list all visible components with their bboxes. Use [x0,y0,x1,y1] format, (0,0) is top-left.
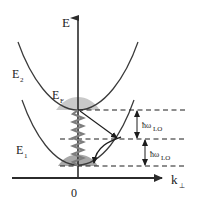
subband-label-E2-sub: 2 [20,76,24,84]
subband-label-E2: E 2 [12,67,24,84]
subband-label-E1-sub: 1 [24,152,28,160]
phonon-energy-upper-label-main: ħω [142,121,151,130]
k-perp-label-main: k [171,172,178,187]
origin-label: 0 [71,186,77,200]
phonon-energy-upper-label: ħω LO [142,121,162,133]
fermi-level-label-sub: F [60,97,64,105]
subband-label-E2-main: E [12,67,19,81]
band-diagram-figure: E k ⊥ 0 E 2 E 1 E F ħω LO ħω [0,0,197,206]
k-perp-label-sub: ⊥ [179,182,185,190]
phonon-energy-lower-label-sub: LO [161,154,170,162]
subband-label-E1-main: E [16,143,23,157]
energy-axis-label: E [62,15,70,30]
k-perp-axis-label: k ⊥ [171,172,185,190]
phonon-energy-lower-label: ħω LO [150,150,170,162]
phonon-energy-upper-label-sub: LO [153,125,162,133]
band-diagram-svg: E k ⊥ 0 E 2 E 1 E F ħω LO ħω [0,0,197,206]
fermi-level-label-main: E [52,88,59,102]
fermi-level-label: E F [52,88,64,105]
intrasubband-relaxation-arrow [94,137,121,163]
subband-label-E1: E 1 [16,143,28,160]
phonon-energy-lower-label-main: ħω [150,150,159,159]
